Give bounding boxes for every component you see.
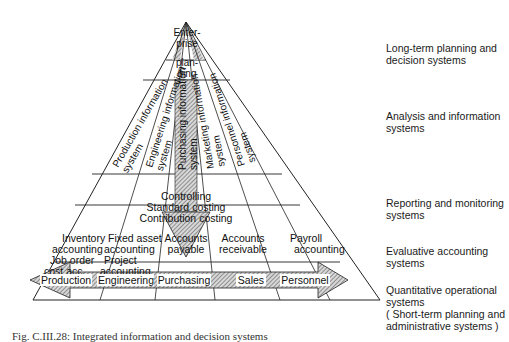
level-label-evaluative: Evaluative accounting systems	[386, 245, 488, 269]
svg-text:Contribution costing: Contribution costing	[140, 212, 233, 224]
cell-payroll: Payroll accounting	[290, 232, 345, 255]
reporting-band-labels: Controlling Standard costing Contributio…	[140, 190, 233, 224]
level-label-reporting: Reporting and monitoring systems	[386, 197, 504, 221]
svg-text:receivable: receivable	[219, 243, 267, 255]
cell-accounts-payable: Accounts payable	[164, 232, 207, 255]
svg-text:Sales: Sales	[238, 274, 264, 286]
level-label-operational: Quantitative operational systems ( Short…	[386, 284, 505, 332]
svg-text:system: system	[188, 138, 199, 170]
evaluative-cell-labels: Inventory accounting Job order cost acc.…	[44, 232, 345, 277]
operational-function-labels: Production Engineering Purchasing Sales …	[40, 274, 330, 286]
svg-text:prise: prise	[176, 38, 198, 49]
svg-text:Enter-: Enter-	[173, 27, 200, 38]
svg-text:Purchasing information: Purchasing information	[177, 68, 188, 170]
figure-caption: Fig. C.III.28: Integrated information an…	[12, 330, 268, 342]
cell-accounts-receivable: Accounts receivable	[219, 232, 267, 255]
svg-text:Personnel: Personnel	[281, 274, 328, 286]
svg-text:accounting: accounting	[294, 243, 345, 255]
svg-text:Purchasing: Purchasing	[158, 274, 211, 286]
cell-inventory: Inventory accounting Job order cost acc.	[44, 232, 106, 277]
level-label-long-term: Long-term planning and decision systems	[386, 42, 497, 66]
svg-text:Production: Production	[41, 274, 91, 286]
svg-text:payable: payable	[168, 243, 205, 255]
cell-fixed-asset: Fixed asset accounting Project accountin…	[100, 232, 162, 277]
svg-text:Engineering: Engineering	[98, 274, 154, 286]
level-label-analysis: Analysis and information systems	[386, 110, 500, 134]
